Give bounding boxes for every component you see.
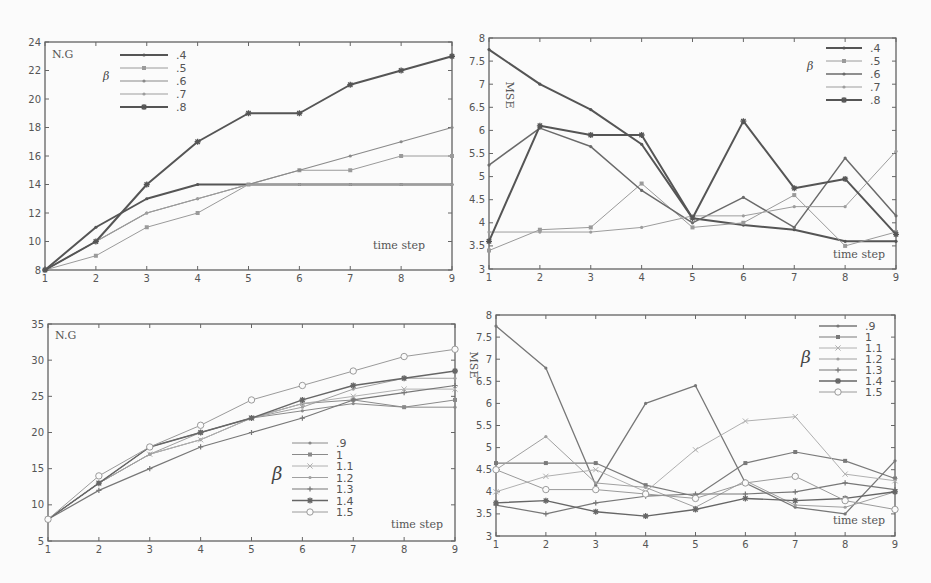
data-point <box>693 447 698 452</box>
legend: β.4.5.6.7.8 <box>102 49 187 114</box>
data-point <box>148 453 151 456</box>
series-line <box>496 326 895 514</box>
x-tick-label: 5 <box>245 273 251 284</box>
x-tick-label: 3 <box>593 539 599 550</box>
y-axis-label: MSE <box>503 82 516 109</box>
legend-marker <box>842 72 845 75</box>
data-point <box>198 444 203 449</box>
data-point <box>589 230 592 233</box>
data-point <box>93 239 99 245</box>
data-point <box>249 415 255 421</box>
data-point <box>691 221 694 224</box>
data-point <box>594 461 598 465</box>
legend-marker <box>308 453 312 457</box>
x-tick-label: 9 <box>452 544 458 555</box>
x-tick-label: 7 <box>791 272 797 283</box>
legend-marker <box>142 79 145 82</box>
legend-marker <box>142 53 145 56</box>
data-point <box>893 231 899 237</box>
y-tick-label: 8 <box>486 310 492 321</box>
series-line <box>48 371 455 519</box>
data-point <box>643 513 649 519</box>
data-point <box>487 230 490 233</box>
legend-marker <box>307 486 312 491</box>
y-tick-label: 22 <box>28 65 41 76</box>
x-tick-label: 6 <box>742 539 748 550</box>
y-tick-label: 5.5 <box>476 420 492 431</box>
y-tick-label: 20 <box>28 94 41 105</box>
legend-marker <box>307 498 313 504</box>
legend-marker <box>308 476 311 479</box>
y-tick-label: 12 <box>28 208 41 219</box>
legend-label: .4 <box>870 42 881 55</box>
legend-marker <box>836 357 839 360</box>
data-point <box>844 240 847 243</box>
y-tick-label: 3.5 <box>476 508 492 519</box>
chart-br: 12345678933.544.555.566.577.58MSEtime st… <box>467 310 898 551</box>
data-point <box>742 495 748 501</box>
y-tick-label: 10 <box>31 499 44 510</box>
legend-label: .6 <box>176 75 187 88</box>
data-point <box>793 489 798 494</box>
y-tick-label: 15 <box>31 463 44 474</box>
data-point <box>299 382 305 388</box>
legend-marker <box>307 509 313 515</box>
x-tick-label: 7 <box>347 273 353 284</box>
x-tick-label: 8 <box>398 273 404 284</box>
y-tick-label: 7 <box>486 354 492 365</box>
legend: β.911.11.21.31.41.5 <box>271 437 354 519</box>
x-tick-label: 1 <box>486 272 492 283</box>
chart-tl: 12345678981012141618202224N.Gtime stepβ.… <box>28 37 455 285</box>
data-point <box>299 397 305 403</box>
series-line <box>45 156 452 270</box>
y-tick-label: 4 <box>479 217 485 228</box>
legend-title: β <box>271 463 282 484</box>
data-point <box>96 488 101 493</box>
data-point <box>893 459 896 462</box>
data-point <box>196 197 199 200</box>
y-axis-label: MSE <box>467 352 480 379</box>
x-tick-label: 1 <box>45 544 51 555</box>
data-point <box>96 480 102 486</box>
y-tick-label: 5 <box>38 536 44 547</box>
data-point <box>247 183 250 186</box>
data-point <box>844 205 847 208</box>
legend-marker <box>842 46 845 49</box>
data-point <box>196 183 199 186</box>
series-line <box>45 185 452 271</box>
data-point <box>449 53 455 59</box>
data-point <box>892 489 898 495</box>
data-point <box>691 225 695 229</box>
data-point <box>450 154 454 158</box>
data-point <box>453 406 456 409</box>
legend-marker <box>308 441 311 444</box>
x-axis-label: time step <box>833 248 885 261</box>
y-tick-label: 24 <box>28 37 41 48</box>
x-axis-label: time step <box>833 514 885 527</box>
y-tick-label: 3.5 <box>469 240 485 251</box>
series-p5 <box>43 154 454 272</box>
data-point <box>94 226 97 229</box>
series-1p4 <box>45 368 458 522</box>
y-axis-label: N.G <box>52 48 73 61</box>
data-point <box>842 176 848 182</box>
data-point <box>402 405 406 409</box>
data-point <box>145 225 149 229</box>
data-point <box>589 145 592 148</box>
series-p8 <box>486 118 899 244</box>
data-point <box>594 481 597 484</box>
y-tick-label: 16 <box>28 151 41 162</box>
data-point <box>349 154 352 157</box>
x-tick-label: 6 <box>296 273 302 284</box>
x-tick-label: 4 <box>194 273 200 284</box>
data-point <box>742 214 745 217</box>
y-tick-label: 25 <box>31 391 44 402</box>
data-point <box>640 143 643 146</box>
data-point <box>298 183 301 186</box>
data-point <box>593 500 598 505</box>
data-point <box>741 221 745 225</box>
x-tick-label: 9 <box>892 539 898 550</box>
data-point <box>399 154 403 158</box>
data-point <box>793 205 796 208</box>
series-line <box>489 128 896 227</box>
